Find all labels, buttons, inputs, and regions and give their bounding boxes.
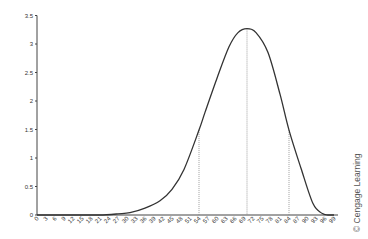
x-tick-label: 0	[33, 215, 40, 222]
x-tick-label: 45	[166, 215, 175, 224]
x-tick-label: 93	[310, 215, 319, 224]
x-tick-label: 33	[130, 215, 139, 224]
x-axis: 0369121518212427303336394245485154576063…	[33, 215, 338, 224]
x-tick-label: 9	[60, 215, 67, 222]
x-tick-label: 66	[229, 215, 238, 224]
x-tick-label: 78	[265, 215, 274, 224]
x-tick-label: 24	[103, 215, 112, 224]
x-tick-label: 15	[76, 215, 85, 224]
reference-lines	[199, 29, 289, 215]
x-tick-label: 12	[67, 215, 76, 224]
x-tick-label: 36	[139, 215, 148, 224]
x-tick-label: 87	[292, 215, 301, 224]
x-tick-label: 6	[51, 215, 58, 222]
x-tick-label: 72	[247, 215, 256, 224]
x-tick-label: 54	[193, 215, 202, 224]
y-axis: 00.511.522.533.5	[25, 13, 37, 219]
x-tick-label: 60	[211, 215, 220, 224]
x-tick-label: 96	[319, 215, 328, 224]
copyright-credit: © Cengage Learning	[352, 153, 362, 232]
y-tick-label: 3	[30, 41, 34, 47]
y-tick-label: 1	[30, 155, 34, 161]
x-tick-label: 99	[328, 215, 337, 224]
x-tick-label: 51	[184, 215, 193, 224]
x-tick-label: 42	[157, 215, 166, 224]
x-tick-label: 69	[238, 215, 247, 224]
x-tick-label: 84	[283, 215, 292, 224]
distribution-chart: 00.511.522.533.5 03691215182124273033363…	[0, 0, 368, 239]
x-tick-label: 57	[202, 215, 211, 224]
x-tick-label: 21	[94, 215, 103, 224]
x-tick-label: 30	[121, 215, 130, 224]
x-tick-label: 27	[112, 215, 121, 224]
y-tick-label: 2.5	[25, 70, 34, 76]
x-tick-label: 63	[220, 215, 229, 224]
density-curve	[37, 29, 334, 215]
x-tick-label: 75	[256, 215, 265, 224]
y-tick-label: 0.5	[25, 184, 34, 190]
x-tick-label: 39	[148, 215, 157, 224]
y-tick-label: 3.5	[25, 13, 34, 19]
y-tick-label: 2	[30, 98, 34, 104]
x-tick-label: 3	[42, 215, 49, 222]
y-tick-label: 1.5	[25, 127, 34, 133]
x-tick-label: 90	[301, 215, 310, 224]
x-tick-label: 48	[175, 215, 184, 224]
x-tick-label: 18	[85, 215, 94, 224]
x-tick-label: 81	[274, 215, 283, 224]
